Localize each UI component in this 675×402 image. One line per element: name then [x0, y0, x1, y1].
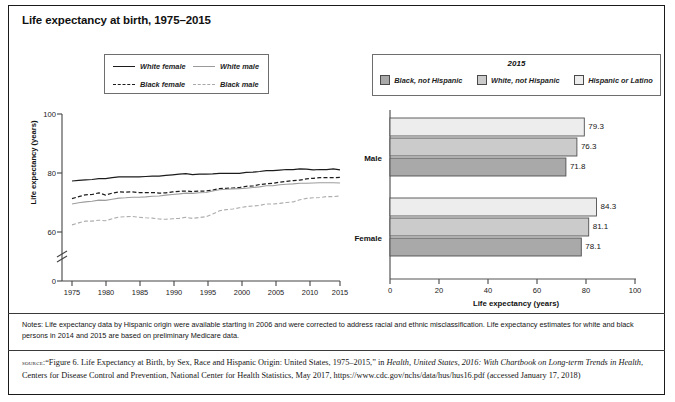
source-italic-title: Health, United States, 2016: With Chartb… — [386, 358, 641, 367]
bar-category-female: Female — [332, 234, 382, 243]
bar-x-tick-20: 20 — [428, 286, 450, 295]
x-tick-1985: 1985 — [127, 288, 153, 297]
line-chart-plot — [10, 38, 362, 310]
series-line-white-female — [72, 169, 340, 181]
x-tick-2000: 2000 — [229, 288, 255, 297]
bar-chart-axes — [368, 38, 664, 310]
series-line-white-male — [72, 183, 340, 204]
figure-container: Life expectancy at birth, 1975–2015 Whit… — [0, 0, 675, 402]
bar-x-tick-40: 40 — [477, 286, 499, 295]
page-title: Life expectancy at birth, 1975–2015 — [22, 14, 211, 26]
bar-x-tick-100: 100 — [624, 286, 646, 295]
x-tick-1995: 1995 — [195, 288, 221, 297]
bar-female-hispanic-or-latino — [390, 198, 597, 216]
x-tick-1990: 1990 — [161, 288, 187, 297]
bar-x-tick-0: 0 — [379, 286, 401, 295]
source-divider — [8, 350, 665, 351]
x-tick-2015: 2015 — [327, 288, 353, 297]
bar-chart-panel: 2015 Black, not Hispanic White, not Hisp… — [368, 38, 664, 310]
notes-divider — [8, 313, 665, 314]
x-tick-2010: 2010 — [297, 288, 323, 297]
bar-category-male: Male — [332, 154, 382, 163]
x-tick-2005: 2005 — [263, 288, 289, 297]
bar-chart-x-axis-label: Life expectancy (years) — [368, 299, 664, 308]
bar-male-hispanic-or-latino — [390, 118, 584, 136]
line-chart-panel: White female White male Black female Bla… — [10, 38, 362, 310]
bar-value-label: 81.1 — [593, 222, 609, 231]
x-tick-1980: 1980 — [93, 288, 119, 297]
x-tick-1975: 1975 — [59, 288, 85, 297]
notes-text: Notes: Life expectancy data by Hispanic … — [22, 320, 652, 342]
bar-value-label: 79.3 — [588, 122, 604, 131]
bar-value-label: 84.3 — [601, 202, 617, 211]
bar-value-label: 78.1 — [585, 242, 601, 251]
bar-x-tick-60: 60 — [526, 286, 548, 295]
bar-male-black-not-hispanic — [390, 158, 566, 176]
bar-male-white-not-hispanic — [390, 138, 577, 156]
source-text: source:“Figure 6. Life Expectancy at Bir… — [22, 357, 652, 383]
bar-value-label: 76.3 — [581, 142, 597, 151]
series-line-black-male — [72, 196, 340, 225]
bar-female-white-not-hispanic — [390, 218, 589, 236]
bar-female-black-not-hispanic — [390, 238, 581, 256]
bar-value-label: 71.8 — [570, 162, 586, 171]
bar-x-tick-80: 80 — [575, 286, 597, 295]
series-line-black-female — [72, 177, 340, 198]
source-label: source: — [22, 358, 45, 367]
source-part1: “Figure 6. Life Expectancy at Birth, by … — [45, 358, 386, 367]
